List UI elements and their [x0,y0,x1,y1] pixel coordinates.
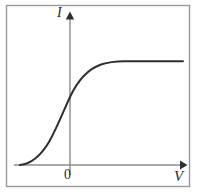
data-curve-photocurrent [20,61,183,165]
figure-container: I V 0 [0,0,197,194]
x-axis-label: V [174,169,183,184]
origin-label: 0 [64,168,71,182]
graph-canvas [0,0,197,194]
y-axis-label: I [57,6,62,20]
y-axis-arrow-icon [66,12,74,20]
